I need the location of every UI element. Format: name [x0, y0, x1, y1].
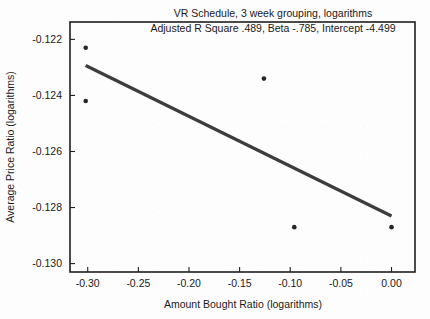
regression-line-group [86, 65, 392, 216]
y-axis-title: Average Price Ratio (logarithms) [4, 71, 16, 223]
data-point [83, 99, 88, 104]
chart-title: VR Schedule, 3 week grouping, logarithms [174, 7, 372, 19]
x-tick-label: -0.20 [177, 277, 201, 289]
x-tick-label: -0.10 [278, 277, 302, 289]
chart-subtitle: Adjusted R Square .489, Beta -.785, Inte… [150, 22, 395, 34]
chart-figure: VR Schedule, 3 week grouping, logarithms… [0, 0, 430, 319]
x-axis-title: Amount Bought Ratio (logarithms) [164, 298, 322, 310]
scatter-plot: VR Schedule, 3 week grouping, logarithms… [0, 0, 430, 319]
x-tick-label: 0.00 [381, 277, 402, 289]
data-point [389, 225, 394, 230]
data-point [292, 225, 297, 230]
y-axis-tick-labels: -0.122-0.124-0.126-0.128-0.130 [32, 33, 62, 269]
y-tick-label: -0.128 [32, 201, 62, 213]
regression-line [86, 65, 392, 216]
data-point [83, 45, 88, 50]
plot-frame [70, 22, 415, 272]
x-axis-tick-labels: -0.30-0.25-0.20-0.15-0.10-0.050.00 [76, 277, 402, 289]
y-tick-label: -0.130 [32, 257, 62, 269]
x-tick-label: -0.25 [126, 277, 150, 289]
y-tick-label: -0.126 [32, 145, 62, 157]
data-point [262, 76, 267, 81]
x-tick-label: -0.15 [228, 277, 252, 289]
x-tick-label: -0.30 [76, 277, 100, 289]
x-tick-label: -0.05 [329, 277, 353, 289]
y-tick-label: -0.124 [32, 89, 62, 101]
y-tick-label: -0.122 [32, 33, 62, 45]
data-points-group [83, 45, 393, 229]
